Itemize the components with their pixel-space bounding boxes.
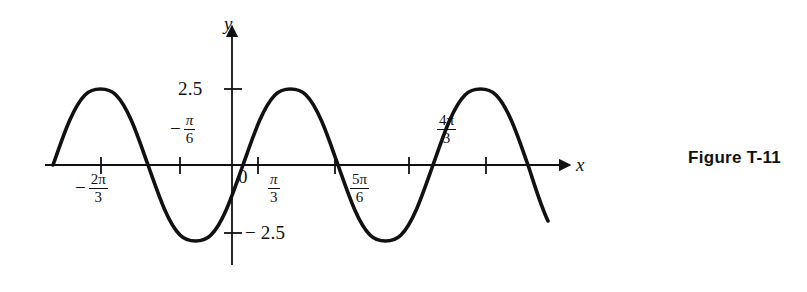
x-tick-label-neg-pi-over-six: − π 6: [170, 113, 195, 146]
sinusoid-plot: y x 0 2.5 − 2.5 − 2π 3 − π 6 π: [0, 0, 620, 292]
fraction-denominator: 3: [89, 188, 108, 205]
x-tick-label-neg-two-pi-over-three: − 2π 3: [75, 172, 108, 205]
fraction-numerator: π: [184, 113, 196, 129]
origin-label: 0: [238, 167, 248, 186]
fraction-denominator: 3: [268, 188, 280, 205]
fraction-numerator: π: [268, 172, 280, 188]
fraction-denominator: 3: [437, 129, 456, 146]
x-tick-label-four-pi-over-three: 4π 3: [437, 113, 456, 146]
fraction-denominator: 6: [350, 188, 369, 205]
fraction-numerator: 5π: [350, 172, 369, 188]
y-tick-label-positive: 2.5: [178, 79, 202, 98]
fraction: π 6: [184, 113, 196, 146]
x-tick-label-five-pi-over-six: 5π 6: [350, 172, 369, 205]
fraction-denominator: 6: [184, 129, 196, 146]
fraction-sign: −: [170, 119, 181, 138]
fraction: 4π 3: [437, 113, 456, 146]
x-tick-label-pi-over-three: π 3: [268, 172, 280, 205]
fraction-sign: −: [75, 178, 86, 197]
fraction: 2π 3: [89, 172, 108, 205]
fraction-numerator: 4π: [437, 113, 456, 129]
fraction-numerator: 2π: [89, 172, 108, 188]
fraction: 5π 6: [350, 172, 369, 205]
y-axis-label: y: [224, 14, 232, 33]
plot-svg: [0, 0, 620, 292]
x-axis-label: x: [576, 155, 584, 174]
figure-caption: Figure T-11: [688, 148, 781, 168]
fraction: π 3: [268, 172, 280, 205]
figure-container: y x 0 2.5 − 2.5 − 2π 3 − π 6 π: [0, 0, 807, 292]
y-tick-label-negative: − 2.5: [245, 223, 285, 242]
